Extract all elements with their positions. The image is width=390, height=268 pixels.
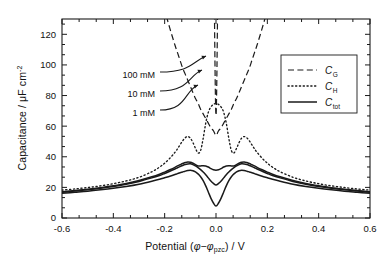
y-tick-label: 40 xyxy=(45,151,56,162)
y-tick-label: 100 xyxy=(40,59,56,70)
curve-c-h xyxy=(62,104,370,191)
x-axis-title-prefix: Potential ( xyxy=(145,240,193,252)
annotation-label: 1 mM xyxy=(133,108,156,118)
y-tick-label: 60 xyxy=(45,121,56,132)
x-tick-label: 0.2 xyxy=(261,223,274,234)
x-tick-label: -0.2 xyxy=(156,223,172,234)
y-tick-label: 0 xyxy=(51,212,56,223)
y-axis-unit: F cm xyxy=(16,72,28,96)
plot-canvas: -0.6-0.4-0.20.00.20.40.6 020406080100120… xyxy=(0,0,390,268)
x-axis-phi: φ xyxy=(194,240,201,252)
annotation-label: 100 mM xyxy=(122,70,155,80)
capacitance-figure: -0.6-0.4-0.20.00.20.40.6 020406080100120… xyxy=(0,0,390,268)
y-axis-exponent: -2 xyxy=(16,66,23,72)
concentration-annotations: 100 mM10 mM1 mM xyxy=(122,56,206,118)
annotation-label: 10 mM xyxy=(127,89,155,99)
x-tick-label: -0.6 xyxy=(54,223,70,234)
y-axis-mu: μ xyxy=(16,96,28,102)
x-axis-title-suffix: ) / V xyxy=(225,240,245,252)
annotation-leader xyxy=(160,85,198,110)
x-tick-label: 0.6 xyxy=(363,223,376,234)
x-tick-label: 0.0 xyxy=(209,223,222,234)
plot-frame xyxy=(62,19,370,218)
x-axis-tick-labels: -0.6-0.4-0.20.00.20.40.6 xyxy=(54,223,377,234)
x-axis-ticks xyxy=(62,19,370,218)
annotation-leader xyxy=(160,70,202,91)
y-axis-title-prefix: Capacitance / xyxy=(16,102,28,171)
legend: CGCHCtot xyxy=(281,55,357,113)
curve-c-tot-1mm xyxy=(62,170,370,206)
y-axis-title: Capacitance / μF cm-2 xyxy=(16,8,28,228)
x-axis-phi-pzc: φ xyxy=(207,240,214,252)
curve-c-g-10mm xyxy=(160,0,273,115)
x-axis-title: Potential (φ−φpzc) / V xyxy=(0,240,390,253)
y-tick-label: 80 xyxy=(45,90,56,101)
curve-c-tot-10mm xyxy=(62,164,370,193)
y-tick-label: 120 xyxy=(40,29,56,40)
annotation-leader xyxy=(160,56,206,72)
x-tick-label: 0.4 xyxy=(312,223,325,234)
legend-box xyxy=(281,55,357,113)
y-tick-label: 20 xyxy=(45,182,56,193)
x-tick-label: -0.4 xyxy=(105,223,121,234)
x-axis-pzc-subscript: pzc xyxy=(214,246,225,253)
y-axis-tick-labels: 020406080100120 xyxy=(40,29,56,224)
